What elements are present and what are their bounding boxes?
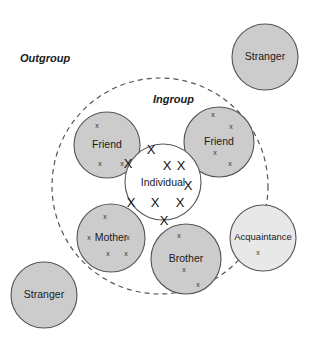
mark-x-individual-6: X [151, 195, 160, 210]
mark-x-friend-left-0: x [95, 122, 99, 129]
node-label-friend-right: Friend [204, 135, 234, 147]
mark-x-individual-0: X [147, 142, 156, 157]
mark-x-acquaintance-0: x [256, 249, 260, 256]
mark-x-individual-2: X [163, 158, 172, 173]
mark-x-friend-right-0: x [211, 111, 215, 118]
mark-x-individual-7: X [176, 195, 185, 210]
mark-x-friend-right-1: x [229, 123, 233, 130]
mark-x-mother-0: x [103, 213, 107, 220]
node-label-stranger-top-right: Stranger [245, 50, 286, 62]
mark-x-mother-1: x [87, 234, 91, 241]
mark-x-friend-left-1: x [98, 160, 102, 167]
mark-x-brother-2: x [196, 281, 200, 288]
social-circles-diagram: xxxxxxxxxxxxxxxxXXXXXXXXXFriendFriendMot… [0, 0, 312, 340]
mark-x-brother-1: x [182, 266, 186, 273]
node-label-brother: Brother [169, 252, 204, 264]
node-label-individual: Individual [141, 176, 185, 188]
mark-x-friend-right-2: x [213, 149, 217, 156]
mark-x-individual-1: X [124, 156, 133, 171]
node-label-friend-left: Friend [92, 138, 122, 150]
node-label-stranger-bottom-left: Stranger [24, 288, 65, 300]
mark-x-brother-0: x [177, 232, 181, 239]
mark-x-individual-3: X [177, 158, 186, 173]
node-label-acquaintance: Acquaintance [234, 231, 292, 242]
mark-x-individual-8: X [160, 213, 169, 228]
mark-x-mother-3: x [106, 250, 110, 257]
outgroup-label: Outgroup [20, 52, 70, 64]
node-label-mother: Mother [95, 231, 128, 243]
mark-x-individual-5: X [127, 195, 136, 210]
mark-x-friend-right-3: x [228, 160, 232, 167]
mark-x-mother-4: x [124, 250, 128, 257]
ingroup-label: Ingroup [153, 93, 194, 105]
diagram-canvas: xxxxxxxxxxxxxxxxXXXXXXXXXFriendFriendMot… [0, 0, 312, 340]
